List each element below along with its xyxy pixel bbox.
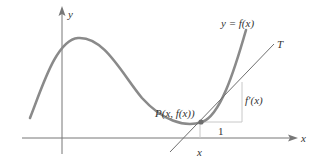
x-axis-label: x — [300, 132, 306, 144]
y-axis-label: y — [67, 8, 73, 20]
rise-label: f′(x) — [245, 94, 263, 107]
curve-label: y = f(x) — [220, 17, 254, 30]
point-label: P(x, f(x)) — [154, 107, 195, 120]
x-axis — [22, 135, 298, 142]
y-axis — [59, 6, 66, 154]
run-label: 1 — [218, 125, 224, 137]
x-tick-label: x — [196, 146, 202, 158]
tangent-label: T — [277, 38, 284, 50]
tangent-point — [198, 119, 203, 124]
tangent-diagram: y x y = f(x) T P(x, f(x)) f′(x) 1 x — [0, 0, 312, 164]
